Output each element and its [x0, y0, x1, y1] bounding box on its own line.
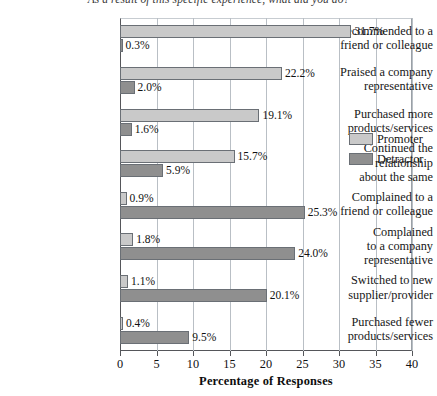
bar-promoter: [120, 150, 235, 163]
bar-value-label: 1.8%: [136, 233, 160, 246]
bar-value-label: 0.3%: [126, 39, 150, 52]
bar-promoter: [120, 233, 133, 246]
bar-promoter: [120, 109, 259, 122]
x-axis-tick-label: 30: [324, 357, 354, 372]
x-axis-tick: [303, 351, 304, 356]
x-axis-tick: [266, 351, 267, 356]
bar-detractor: [120, 81, 135, 94]
bar-detractor: [120, 247, 295, 260]
x-axis-tick-label: 35: [361, 357, 391, 372]
category-label: Complained to a company representative: [319, 225, 437, 268]
legend-label: Detractor: [377, 151, 423, 167]
bar-detractor: [120, 331, 189, 344]
bar-detractor: [120, 289, 267, 302]
x-axis-tick: [339, 351, 340, 356]
x-axis-tick-label: 15: [215, 357, 245, 372]
bar-value-label: 0.9%: [130, 192, 154, 205]
legend-swatch-detractor: [349, 153, 373, 165]
bar-value-label: 31.7%: [354, 25, 384, 38]
bar-value-label: 15.7%: [238, 150, 268, 163]
legend-swatch-promoter: [349, 133, 373, 145]
bar-value-label: 1.6%: [135, 123, 159, 136]
bar-chart: As a result of this specific experience,…: [0, 0, 437, 396]
bar-detractor: [120, 39, 123, 52]
bar-promoter: [120, 192, 127, 205]
bar-value-label: 2.0%: [138, 81, 162, 94]
bar-promoter: [120, 67, 282, 80]
bar-value-label: 20.1%: [270, 289, 300, 302]
bar-detractor: [120, 123, 132, 136]
bar-promoter: [120, 275, 128, 288]
bar-value-label: 0.4%: [126, 317, 150, 330]
bar-value-label: 5.9%: [166, 164, 190, 177]
x-axis-tick-label: 40: [397, 357, 427, 372]
x-axis-tick-label: 25: [288, 357, 318, 372]
bar-value-label: 1.1%: [131, 275, 155, 288]
bar-promoter: [120, 25, 351, 38]
category-label: Praised a company representative: [319, 65, 437, 93]
x-axis-tick: [230, 351, 231, 356]
bar-value-label: 24.0%: [298, 247, 328, 260]
bar-value-label: 19.1%: [262, 109, 292, 122]
legend-item[interactable]: Detractor: [349, 151, 435, 168]
bar-detractor: [120, 206, 305, 219]
legend-label: Promoter: [377, 131, 423, 147]
chart-title: As a result of this specific experience,…: [0, 0, 437, 5]
x-axis-tick: [412, 351, 413, 356]
x-axis-tick-label: 5: [142, 357, 172, 372]
x-axis-tick: [120, 351, 121, 356]
x-axis-tick: [193, 351, 194, 356]
x-axis-title: Percentage of Responses: [120, 374, 412, 389]
x-axis-tick-label: 20: [251, 357, 281, 372]
chart-legend: PromoterDetractor: [349, 131, 435, 171]
bar-value-label: 9.5%: [192, 331, 216, 344]
legend-item[interactable]: Promoter: [349, 131, 435, 148]
category-label: Purchased fewer products/services: [319, 315, 437, 343]
bar-detractor: [120, 164, 163, 177]
x-axis-tick: [157, 351, 158, 356]
x-axis-tick: [376, 351, 377, 356]
x-axis-tick-label: 10: [178, 357, 208, 372]
category-label: Switched to new supplier/provider: [319, 273, 437, 301]
bar-promoter: [120, 317, 123, 330]
bar-value-label: 22.2%: [285, 67, 315, 80]
x-axis-tick-label: 0: [105, 357, 135, 372]
bar-value-label: 25.3%: [308, 206, 338, 219]
